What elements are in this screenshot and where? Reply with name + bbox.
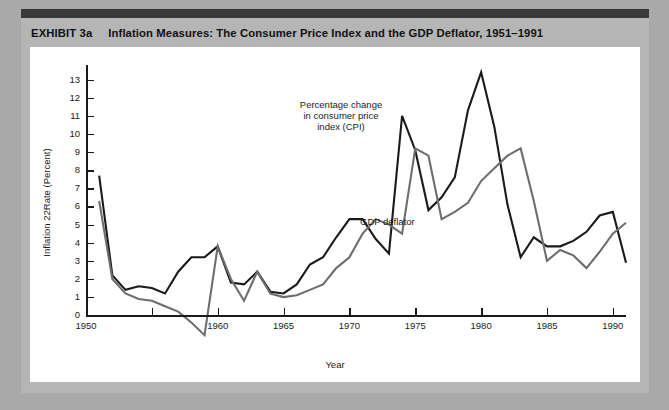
y-tick-label-8: 8 [58,165,80,175]
y-tick-label-11: 11 [58,111,80,121]
y-tick-12 [88,98,94,99]
x-tick-1990 [613,308,614,315]
x-tick-label-1985: 1985 [527,321,567,331]
y-tick-1 [88,297,94,298]
y-tick-label-2: 2 [58,274,80,284]
y-tick-label-13: 13 [58,75,80,85]
y-tick-10 [88,134,94,135]
exhibit-panel: EXHIBIT 3a Inflation Measures: The Consu… [21,9,649,393]
y-tick-7 [88,188,94,189]
y-tick-label-7: 7 [58,183,80,193]
annotation-cpi: Percentage change in consumer price inde… [276,99,406,132]
x-tick-label-1975: 1975 [395,321,435,331]
x-tick-label-1950: 1950 [66,321,106,331]
y-tick-label-6: 6 [58,201,80,211]
y-tick-label-10: 10 [58,129,80,139]
y-tick-9 [88,152,94,153]
exhibit-header-bar [21,9,649,18]
x-tick-1980 [481,308,482,315]
x-tick-1950 [86,308,87,315]
exhibit-title: Inflation Measures: The Consumer Price I… [108,27,543,39]
x-axis-title: Year [30,359,640,370]
x-tick-1955 [152,308,153,315]
x-tick-label-1965: 1965 [264,321,304,331]
y-axis-title: Inflation 22Rate (Percent) [41,115,52,291]
x-tick-1985 [547,308,548,315]
y-tick-2 [88,279,94,280]
x-tick-1975 [415,308,416,315]
y-tick-label-3: 3 [58,256,80,266]
y-tick-label-0: 0 [58,310,80,320]
exhibit-caption: EXHIBIT 3a Inflation Measures: The Consu… [31,22,641,44]
y-tick-6 [88,206,94,207]
y-tick-label-9: 9 [58,147,80,157]
y-tick-8 [88,170,94,171]
y-tick-11 [88,116,94,117]
x-tick-1965 [284,308,285,315]
x-tick-label-1960: 1960 [198,321,238,331]
x-axis-line [86,315,626,317]
y-tick-0 [88,315,94,316]
y-tick-5 [88,225,94,226]
x-tick-1970 [349,308,350,315]
x-tick-label-1980: 1980 [461,321,501,331]
y-tick-3 [88,261,94,262]
chart-plot-area: Inflation 22Rate (Percent) Year Percenta… [30,47,640,382]
x-tick-label-1970: 1970 [329,321,369,331]
y-tick-label-4: 4 [58,238,80,248]
x-tick-label-1990: 1990 [593,321,633,331]
chart-series-layer [30,47,640,382]
y-tick-label-1: 1 [58,292,80,302]
y-tick-13 [88,80,94,81]
x-tick-1960 [218,308,219,315]
y-tick-4 [88,243,94,244]
series-gdp-deflator [99,148,626,335]
annotation-gdp-deflator: GDP deflator [360,216,415,227]
exhibit-number: EXHIBIT 3a [31,27,92,39]
y-tick-label-12: 12 [58,93,80,103]
y-tick-label-5: 5 [58,220,80,230]
line-chart: Inflation 22Rate (Percent) Year Percenta… [30,47,640,382]
